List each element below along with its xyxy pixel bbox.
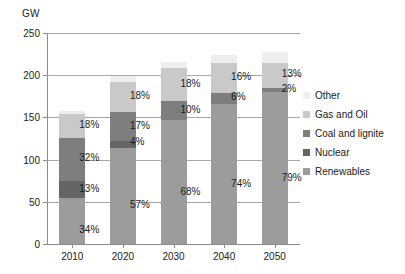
plot-area: 050100150200250201018%32%13%34%202018%17… xyxy=(47,33,300,244)
x-axis-label-2020: 2020 xyxy=(112,251,134,262)
x-tick-2010 xyxy=(72,244,73,248)
y-tick-200 xyxy=(43,75,47,76)
data-label-2030-renewables: 68% xyxy=(181,186,201,197)
legend-label-renewables: Renewables xyxy=(315,166,370,177)
legend-label-other: Other xyxy=(315,90,340,101)
y-tick-100 xyxy=(43,160,47,161)
legend-item-nuclear: Nuclear xyxy=(303,143,403,162)
x-tick-2030 xyxy=(174,244,175,248)
legend-label-gas-and-oil: Gas and Oil xyxy=(315,109,368,120)
data-label-2050-gas-and-oil: 13% xyxy=(282,68,302,79)
bar-segment-2030-other[interactable] xyxy=(161,62,187,69)
x-tick-2050 xyxy=(275,244,276,248)
bar-segment-2040-renewables[interactable] xyxy=(211,104,237,244)
legend-label-nuclear: Nuclear xyxy=(315,147,349,158)
legend: Other Gas and Oil Coal and lignite Nucle… xyxy=(303,86,403,181)
y-axis-label-150: 150 xyxy=(23,112,40,123)
data-label-2010-nuclear: 13% xyxy=(79,183,99,194)
legend-item-coal-and-lignite: Coal and lignite xyxy=(303,124,403,143)
data-label-2010-gas-and-oil: 18% xyxy=(79,119,99,130)
data-label-2020-nuclear: 4% xyxy=(130,136,144,147)
bar-segment-2040-other[interactable] xyxy=(211,55,237,63)
data-label-2020-renewables: 57% xyxy=(130,199,150,210)
legend-swatch-gas-and-oil-icon xyxy=(303,111,310,118)
x-tick-2040 xyxy=(224,244,225,248)
bar-2040[interactable] xyxy=(211,33,237,244)
y-axis-label-50: 50 xyxy=(29,196,40,207)
legend-item-other: Other xyxy=(303,86,403,105)
y-axis-label-100: 100 xyxy=(23,154,40,165)
legend-item-renewables: Renewables xyxy=(303,162,403,181)
bar-2030[interactable] xyxy=(161,33,187,244)
data-label-2040-renewables: 74% xyxy=(231,178,251,189)
legend-label-coal-and-lignite: Coal and lignite xyxy=(315,128,384,139)
bar-segment-2050-other[interactable] xyxy=(262,52,288,63)
x-axis-label-2040: 2040 xyxy=(213,251,235,262)
data-label-2010-coal-and-lignite: 32% xyxy=(79,152,99,163)
legend-swatch-other-icon xyxy=(303,92,310,99)
data-label-2010-renewables: 34% xyxy=(79,224,99,235)
y-tick-50 xyxy=(43,202,47,203)
y-axis-label-0: 0 xyxy=(34,239,40,250)
y-tick-0 xyxy=(43,244,47,245)
y-axis-label-200: 200 xyxy=(23,70,40,81)
stacked-bar-chart: GW 050100150200250201018%32%13%34%202018… xyxy=(0,0,405,274)
bar-segment-2020-renewables[interactable] xyxy=(110,148,136,244)
data-label-2050-renewables: 79% xyxy=(282,172,302,183)
bar-segment-2050-renewables[interactable] xyxy=(262,92,288,244)
data-label-2030-gas-and-oil: 18% xyxy=(181,78,201,89)
x-tick-2020 xyxy=(123,244,124,248)
y-axis-line xyxy=(47,33,48,244)
legend-item-gas-and-oil: Gas and Oil xyxy=(303,105,403,124)
y-tick-150 xyxy=(43,117,47,118)
bar-segment-2020-other[interactable] xyxy=(110,76,136,82)
bar-2050[interactable] xyxy=(262,33,288,244)
bar-segment-2010-other[interactable] xyxy=(59,111,85,114)
legend-swatch-renewables-icon xyxy=(303,168,310,175)
data-label-2030-coal-and-lignite: 10% xyxy=(181,104,201,115)
x-axis-label-2010: 2010 xyxy=(61,251,83,262)
x-axis-label-2030: 2030 xyxy=(162,251,184,262)
bar-segment-2030-renewables[interactable] xyxy=(161,120,187,244)
data-label-2020-coal-and-lignite: 17% xyxy=(130,120,150,131)
bar-segment-2010-renewables[interactable] xyxy=(59,198,85,244)
y-tick-250 xyxy=(43,33,47,34)
legend-swatch-coal-and-lignite-icon xyxy=(303,130,310,137)
bar-2010[interactable] xyxy=(59,33,85,244)
data-label-2040-gas-and-oil: 16% xyxy=(231,71,251,82)
y-axis-label-250: 250 xyxy=(23,28,40,39)
data-label-2050-coal-and-lignite: 2% xyxy=(282,83,296,94)
x-axis-label-2050: 2050 xyxy=(264,251,286,262)
data-label-2040-coal-and-lignite: 6% xyxy=(231,91,245,102)
y-axis-unit-label: GW xyxy=(22,8,40,19)
legend-swatch-nuclear-icon xyxy=(303,149,310,156)
data-label-2020-gas-and-oil: 18% xyxy=(130,90,150,101)
